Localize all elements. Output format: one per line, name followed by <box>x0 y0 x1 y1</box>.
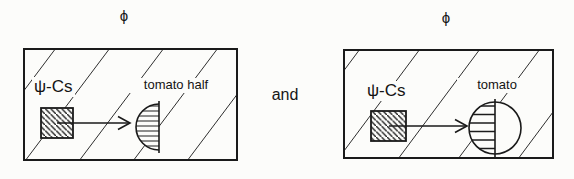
scene-box-left: ψ-Cs tomato half <box>23 48 238 161</box>
diagonal-hatching-left <box>23 48 238 161</box>
psi-cs-label-left: ψ-Cs <box>32 77 75 97</box>
scene-box-right: ψ-Cs tomato <box>343 49 554 159</box>
phi-label-right: ϕ <box>426 10 466 27</box>
figure: ϕ ϕ <box>0 0 574 179</box>
scene-left-drawing <box>23 48 238 161</box>
scene-right-drawing <box>343 49 554 159</box>
object-label-right: tomato <box>457 78 537 93</box>
diagonal-hatching-right <box>343 49 554 159</box>
connector-label: and <box>261 86 309 104</box>
tomato-half-icon <box>134 101 160 153</box>
psi-cs-label-right: ψ-Cs <box>365 81 408 101</box>
tomato-icon <box>467 99 521 157</box>
phi-label-left: ϕ <box>104 8 144 25</box>
object-label-left: tomato half <box>125 78 227 93</box>
